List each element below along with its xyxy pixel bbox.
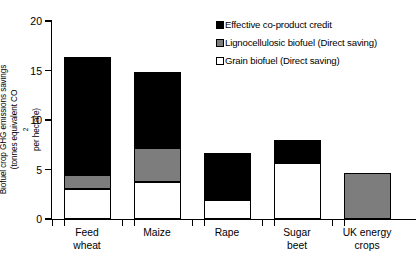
x-axis-tick [344, 220, 345, 226]
bar-segment [344, 173, 391, 219]
legend-swatch-icon [216, 39, 224, 47]
x-axis-tick [122, 220, 123, 226]
bar-segment [204, 153, 251, 201]
legend-item-label: Grain biofuel (Direct saving) [225, 56, 340, 66]
y-axis-tick [45, 20, 51, 21]
x-axis-tick [262, 220, 263, 226]
bar-segment [64, 175, 111, 189]
y-axis-tick [45, 70, 51, 71]
y-axis-tick [45, 169, 51, 170]
x-axis-label: Rape [188, 226, 266, 239]
x-axis-label-line: wheat [48, 239, 126, 252]
legend-swatch-icon [216, 57, 224, 65]
x-axis-label-line: Rape [188, 226, 266, 239]
x-axis-label: Maize [118, 226, 196, 239]
bar-segment [134, 148, 181, 183]
bar-maize [134, 21, 181, 219]
x-axis-tick [192, 220, 193, 226]
bar-segment [64, 189, 111, 219]
legend-item-label: Lignocellulosic biofuel (Direct saving) [225, 38, 377, 48]
y-axis-title-line-1: Biofuel crop GHG emissions savings [0, 65, 9, 194]
legend-item: Effective co-product credit [216, 16, 416, 34]
legend: Effective co-product creditLignocellulos… [216, 16, 416, 70]
x-axis-label-line: beet [258, 239, 336, 252]
x-axis-tick [204, 220, 205, 226]
x-axis-tick [134, 220, 135, 226]
legend-item: Grain biofuel (Direct saving) [216, 52, 416, 70]
x-axis-label-line: UK energy [328, 226, 406, 239]
bar-feed-wheat [64, 21, 111, 219]
x-axis-label-line: Feed [48, 226, 126, 239]
x-axis-label: Feedwheat [48, 226, 126, 252]
bar-segment [134, 72, 181, 147]
bar-segment [274, 163, 321, 219]
y-axis-tick-label: 15 [2, 66, 42, 76]
y-axis-tick-label: 20 [2, 16, 42, 26]
x-axis-label-line: Maize [118, 226, 196, 239]
legend-swatch-icon [216, 21, 224, 29]
legend-item-label: Effective co-product credit [225, 20, 332, 30]
y-axis-line [51, 20, 52, 220]
legend-item: Lignocellulosic biofuel (Direct saving) [216, 34, 416, 52]
y-axis-title-subscript: 2 [20, 65, 31, 194]
y-axis-tick-label: 5 [2, 165, 42, 175]
y-axis-title-line-2-pre: (tonnes equivalent CO [9, 65, 20, 194]
bar-segment [274, 140, 321, 163]
bar-chart: Biofuel crop GHG emissions savings (tonn… [0, 0, 417, 259]
x-axis-tick [64, 220, 65, 226]
x-axis-label: UK energycrops [328, 226, 406, 252]
x-axis-tick [52, 220, 53, 226]
x-axis-label-line: crops [328, 239, 406, 252]
x-axis-tick [332, 220, 333, 226]
x-axis-label-line: Sugar [258, 226, 336, 239]
y-axis-tick [45, 119, 51, 120]
y-axis-tick [45, 218, 51, 219]
bar-segment [64, 57, 111, 176]
x-axis-tick [274, 220, 275, 226]
y-axis-tick-label: 0 [2, 214, 42, 224]
x-axis-label: Sugarbeet [258, 226, 336, 252]
y-axis-tick-label: 10 [2, 115, 42, 125]
bar-segment [134, 182, 181, 219]
bar-segment [204, 200, 251, 219]
